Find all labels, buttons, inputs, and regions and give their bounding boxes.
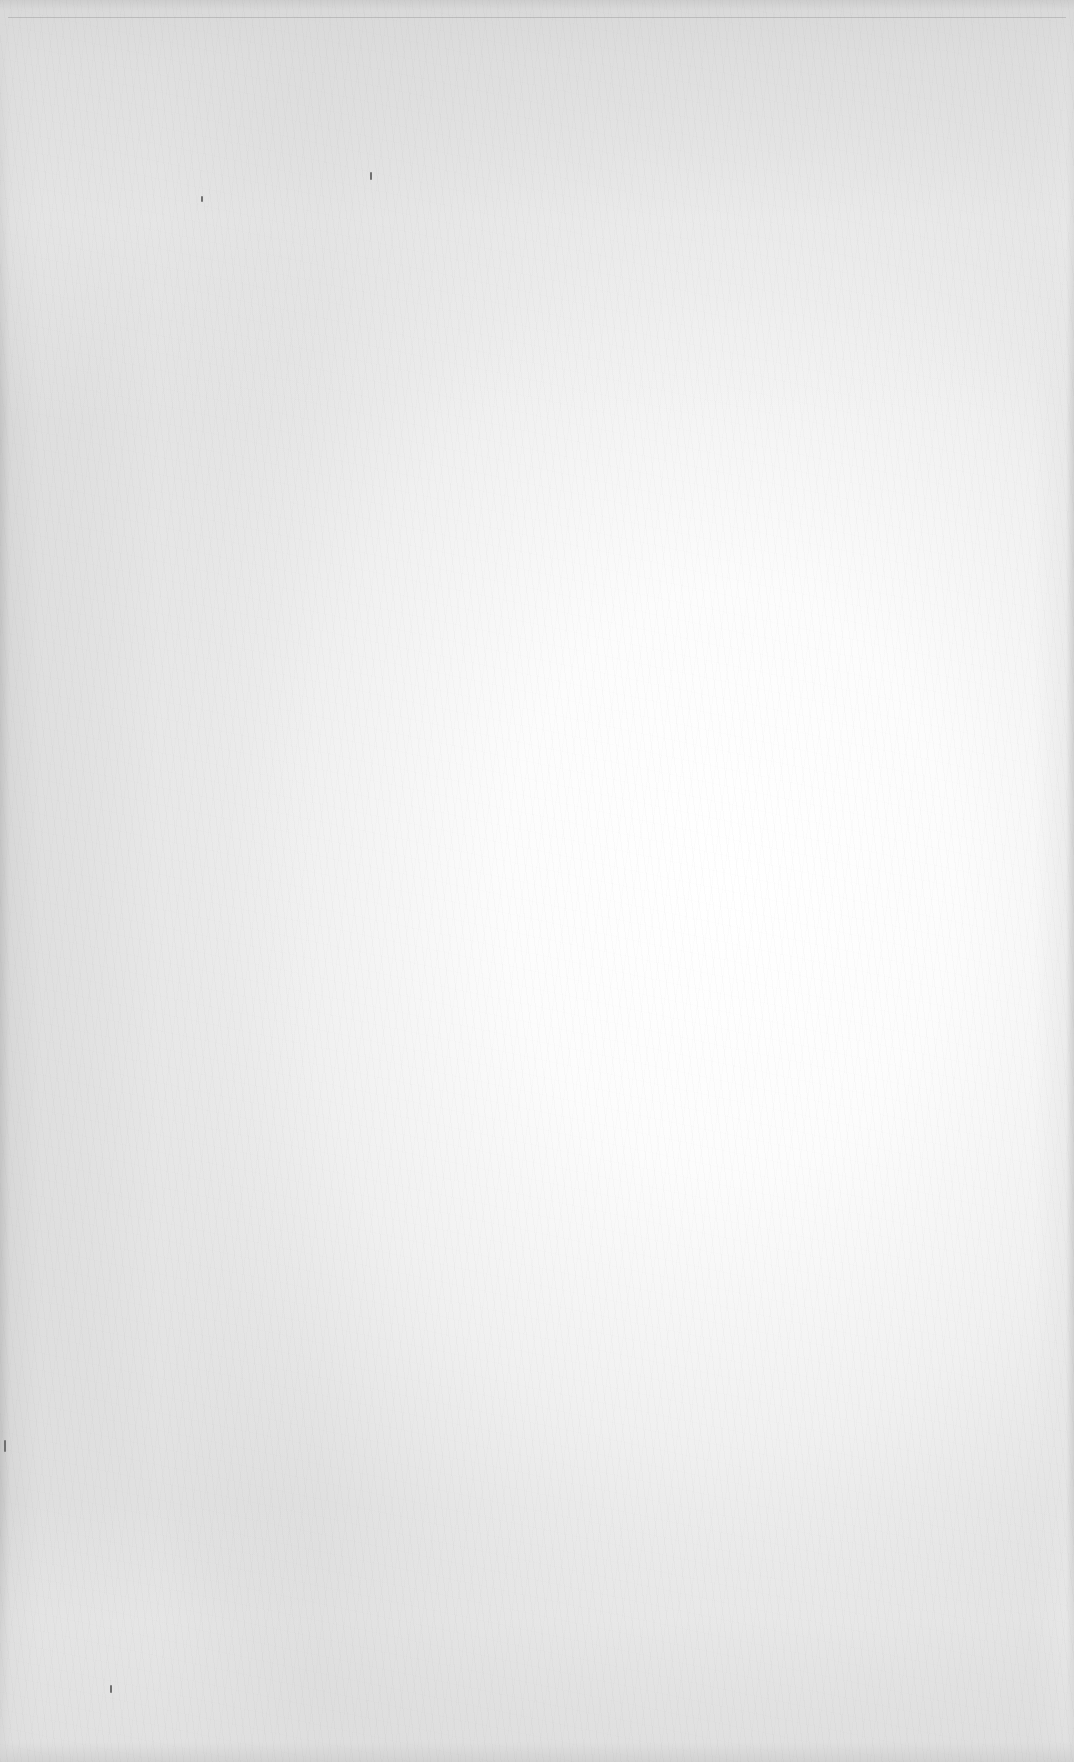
paper-speck [4,1440,6,1452]
paper-speck [110,1685,112,1693]
paper-fiber-texture [0,0,1074,1762]
paper-speck [201,196,203,202]
paper-speck [370,172,372,180]
top-rule-line [8,17,1066,18]
blank-document-page [0,0,1074,1762]
